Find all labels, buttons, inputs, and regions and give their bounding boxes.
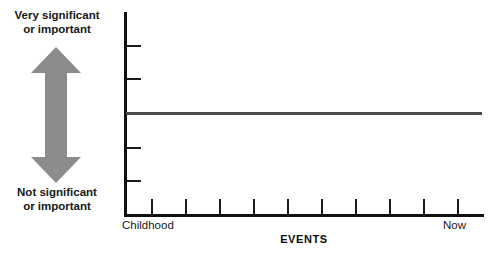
data-series-line	[126, 112, 482, 115]
x-axis-tick	[185, 199, 187, 214]
y-axis-tick	[127, 78, 141, 80]
x-axis-tick	[423, 199, 425, 214]
x-axis-tick	[355, 199, 357, 214]
chart-figure: Very significant or important Not signif…	[0, 0, 496, 261]
x-axis-tick	[287, 199, 289, 214]
x-axis-label-now: Now	[443, 219, 466, 231]
y-axis-tick	[127, 45, 141, 47]
x-axis-label-childhood: Childhood	[122, 219, 174, 231]
x-axis-tick	[151, 199, 153, 214]
y-axis	[124, 12, 127, 217]
x-axis-tick	[253, 199, 255, 214]
y-axis-tick	[127, 180, 141, 182]
x-axis	[124, 214, 484, 217]
y-axis-tick	[127, 147, 141, 149]
x-axis-tick	[457, 199, 459, 214]
plot-area: Childhood Now EVENTS	[0, 0, 496, 261]
x-axis-tick	[219, 199, 221, 214]
x-axis-title: EVENTS	[124, 233, 484, 245]
x-axis-tick	[389, 199, 391, 214]
x-axis-tick	[321, 199, 323, 214]
